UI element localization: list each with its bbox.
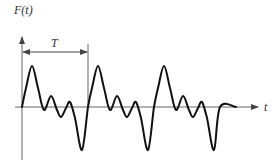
period-label: T [51,36,59,50]
waveform-curve [22,66,236,150]
x-axis-label: t [264,100,268,114]
periodic-waveform-diagram: F(t) t T [0,0,278,162]
y-axis-label: F(t) [13,3,33,17]
